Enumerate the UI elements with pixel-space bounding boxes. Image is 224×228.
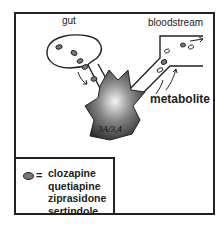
legend-drug: clozapine <box>48 167 106 180</box>
gut-pouch-icon <box>47 35 108 92</box>
drug-molecule-icon <box>23 172 34 180</box>
bloodstream-label: bloodstream <box>148 17 203 28</box>
metabolite-label: metabolite <box>150 92 210 106</box>
enzyme-label: 3A/3,4 <box>98 124 122 134</box>
legend-drug: ziprasidone <box>48 192 106 205</box>
legend-equals: = <box>36 169 42 181</box>
legend-drug: quetiapine <box>48 180 106 193</box>
legend-drug: sertindole <box>48 205 106 218</box>
gut-label: gut <box>62 15 76 26</box>
legend-drug-list: clozapine quetiapine ziprasidone sertind… <box>48 167 106 217</box>
bloodstream-molecules <box>157 43 195 73</box>
gut-flow-arrow-icon <box>78 72 87 84</box>
